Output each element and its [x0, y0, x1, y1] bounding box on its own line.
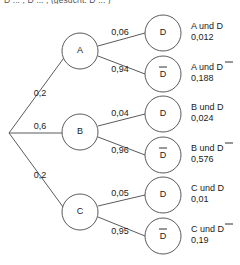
prob-a-d: 0,06 — [111, 27, 129, 37]
prob-root-a: 0,2 — [34, 88, 47, 98]
outcome-c-dbar-value: 0,19 — [191, 235, 209, 245]
prob-b-d: 0,04 — [111, 108, 129, 118]
node-c-dbar: D — [145, 218, 181, 254]
prob-root-b: 0,6 — [34, 121, 47, 131]
outcome-c-dbar-text: C und D — [191, 224, 225, 234]
outcome-b-dbar-text: B und D — [191, 143, 224, 153]
outcome-a-d-value: 0,012 — [191, 32, 214, 42]
outcome-b-dbar: B und D 0,576 — [191, 143, 233, 164]
outcome-a-d: A und D 0,012 — [191, 21, 224, 42]
node-b-d-label: D — [160, 108, 167, 118]
node-b-dbar-label: D — [160, 150, 167, 160]
node-a: A — [62, 33, 98, 69]
outcome-b-d-value: 0,024 — [191, 113, 214, 123]
node-b: B — [62, 114, 98, 150]
outcome-a-dbar: A und D 0,188 — [191, 62, 233, 83]
node-a-dbar-label: D — [160, 69, 167, 79]
node-c: C — [62, 194, 98, 230]
outcome-b-dbar-value: 0,576 — [191, 154, 214, 164]
node-a-label: A — [77, 45, 83, 55]
node-a-d-label: D — [160, 27, 167, 37]
node-b-d: D — [145, 96, 181, 132]
outcome-c-d-value: 0,01 — [191, 194, 209, 204]
prob-a-dbar: 0,94 — [111, 64, 129, 74]
outcome-a-d-text: A und D — [191, 21, 224, 31]
node-c-dbar-label: D — [160, 231, 167, 241]
node-b-label: B — [77, 126, 83, 136]
prob-b-dbar: 0,96 — [111, 145, 129, 155]
prob-c-d: 0,05 — [111, 188, 129, 198]
outcome-c-d: C und D 0,01 — [191, 183, 225, 204]
prob-c-dbar: 0,95 — [111, 226, 129, 236]
node-a-d: D — [145, 15, 181, 51]
outcome-b-d: B und D 0,024 — [191, 102, 224, 123]
outcome-a-dbar-text: A und D — [191, 62, 224, 72]
node-c-d: D — [145, 177, 181, 213]
outcome-c-dbar: C und D 0,19 — [191, 224, 233, 245]
outcome-c-d-text: C und D — [191, 183, 225, 193]
tree-svg: A B C 0,2 0,6 0,2 D D D D — [0, 0, 240, 265]
node-c-d-label: D — [160, 189, 167, 199]
node-a-dbar: D — [145, 56, 181, 92]
outcome-a-dbar-value: 0,188 — [191, 73, 214, 83]
outcome-b-d-text: B und D — [191, 102, 224, 112]
node-b-dbar: D — [145, 137, 181, 173]
node-c-label: C — [77, 206, 84, 216]
probability-tree-diagram: D ... , D ... , (gesucht: D ... ) A B C … — [0, 0, 240, 265]
prob-root-c: 0,2 — [34, 170, 47, 180]
